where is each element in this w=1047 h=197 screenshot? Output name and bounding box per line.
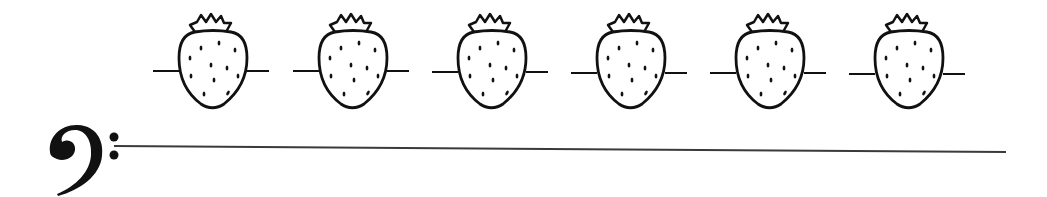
staff-line	[114, 145, 1006, 153]
strawberry-note-5	[710, 10, 830, 120]
strawberry-icon	[293, 10, 413, 120]
strawberry-icon	[710, 10, 830, 120]
strawberry-note-4	[571, 10, 691, 120]
strawberry-note-3	[432, 10, 552, 120]
strawberry-icon	[153, 10, 273, 120]
strawberry-note-1	[153, 10, 273, 120]
strawberry-note-2	[293, 10, 413, 120]
strawberry-icon	[849, 10, 969, 120]
strawberry-note-6	[849, 10, 969, 120]
strawberry-icon	[432, 10, 552, 120]
strawberry-icon	[571, 10, 691, 120]
bass-clef-icon	[40, 118, 120, 197]
